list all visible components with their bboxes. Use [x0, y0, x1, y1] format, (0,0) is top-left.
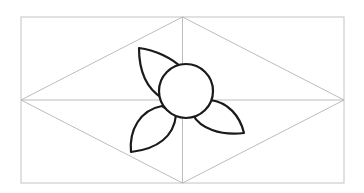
flower-diagram [0, 0, 364, 193]
flower-center-circle [159, 64, 213, 118]
diagram-canvas [0, 0, 364, 193]
